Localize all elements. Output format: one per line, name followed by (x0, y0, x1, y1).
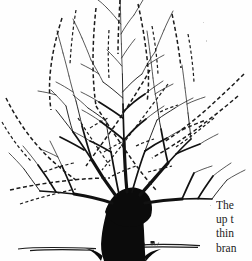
tree-illustration (0, 0, 252, 261)
caption-line-1: The (216, 198, 252, 212)
caption-line-2: up t (216, 212, 252, 226)
scan-speck (203, 22, 204, 23)
caption-line-4: bran (216, 241, 252, 255)
scan-speck (206, 40, 207, 42)
caption-text: The up t thin bran (216, 198, 252, 255)
caption-line-3: thin (216, 226, 252, 240)
figure-page: The up t thin bran (0, 0, 252, 261)
scan-speck (210, 205, 211, 206)
